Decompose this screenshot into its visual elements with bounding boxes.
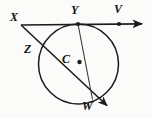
point-label-x: X bbox=[10, 11, 18, 23]
point-dot-C bbox=[77, 60, 81, 64]
point-label-w: W bbox=[82, 100, 93, 112]
tangent-ray-XV bbox=[21, 24, 142, 25]
point-label-c: C bbox=[62, 53, 70, 65]
geometry-figure: X Y V Z C W bbox=[0, 0, 152, 118]
point-label-y: Y bbox=[71, 4, 78, 16]
circle-shape bbox=[39, 24, 119, 104]
point-label-v: V bbox=[114, 3, 122, 15]
geometry-canvas bbox=[0, 0, 152, 118]
point-label-z: Z bbox=[24, 43, 31, 55]
point-dot-Y bbox=[76, 22, 80, 26]
point-dot-V bbox=[117, 22, 121, 26]
